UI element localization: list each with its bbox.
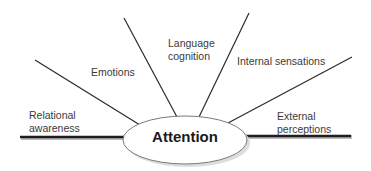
label-external-perceptions: External perceptions [277,110,331,135]
label-language-cognition: Language cognition [168,37,215,62]
label-external-perceptions-line2: perceptions [277,123,331,136]
label-emotions-line1: Emotions [91,66,135,79]
label-internal-sensations: Internal sensations [237,55,325,68]
label-relational-awareness-line1: Relational [29,109,80,122]
label-internal-sensations-line1: Internal sensations [237,55,325,68]
label-external-perceptions-line1: External [277,110,331,123]
label-language-cognition-line2: cognition [168,50,215,63]
label-relational-awareness: Relational awareness [29,109,80,134]
label-emotions: Emotions [91,66,135,79]
label-relational-awareness-line2: awareness [29,122,80,135]
diagram-canvas [0,0,371,171]
center-label-attention: Attention [123,128,247,145]
label-language-cognition-line1: Language [168,37,215,50]
